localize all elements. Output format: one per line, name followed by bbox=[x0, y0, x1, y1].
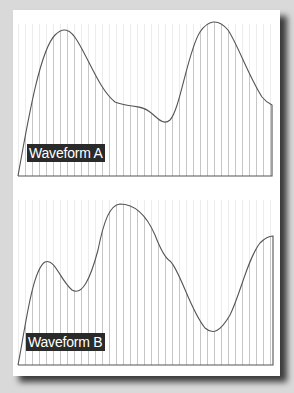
waveform-a-chart bbox=[18, 0, 274, 200]
waveform-a-label: Waveform A bbox=[27, 144, 105, 162]
waveform-b-label: Waveform B bbox=[26, 333, 105, 351]
